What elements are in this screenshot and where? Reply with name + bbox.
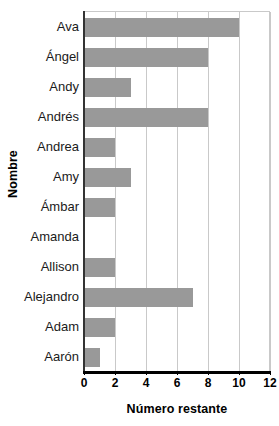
x-axis-tick-label: 0 [69, 376, 99, 390]
gridline [270, 12, 271, 371]
bar [84, 288, 193, 307]
y-axis-tick-label: Allison [41, 252, 79, 282]
bar [84, 258, 115, 277]
x-axis-tick-label: 10 [224, 376, 254, 390]
x-tick-mark [239, 371, 240, 375]
y-axis-title: Nombre [6, 134, 20, 214]
x-axis-tick-label: 6 [162, 376, 192, 390]
y-axis-tick-label: Aarón [44, 342, 79, 372]
x-tick-mark [84, 371, 85, 375]
x-tick-mark [208, 371, 209, 375]
bar-row: Alejandro [84, 282, 269, 312]
bar [84, 348, 100, 367]
y-axis-tick-label: Amy [53, 162, 79, 192]
x-axis-tick-label: 4 [131, 376, 161, 390]
y-axis-tick-label: Ava [57, 12, 79, 42]
x-tick-mark [115, 371, 116, 375]
bar [84, 168, 131, 187]
y-axis-tick-label: Andy [49, 72, 79, 102]
y-axis-tick-label: Amanda [31, 222, 79, 252]
bar-row: Amy [84, 162, 269, 192]
bar-row: Amanda [84, 222, 269, 252]
bar [84, 78, 131, 97]
bar [84, 138, 115, 157]
x-tick-mark [270, 371, 271, 375]
y-axis-tick-label: Ámbar [41, 192, 79, 222]
bar [84, 318, 115, 337]
x-tick-mark [146, 371, 147, 375]
bar-row: Andrea [84, 132, 269, 162]
x-axis-tick-label: 2 [100, 376, 130, 390]
bar-row: Ángel [84, 42, 269, 72]
bar-row: Allison [84, 252, 269, 282]
bar-chart: Nombre AvaÁngelAndyAndrésAndreaAmyÁmbarA… [0, 0, 279, 426]
y-axis-tick-label: Andrés [38, 102, 79, 132]
x-axis-tick-label: 8 [193, 376, 223, 390]
y-axis-tick-label: Ángel [46, 42, 79, 72]
x-tick-mark [177, 371, 178, 375]
x-axis-tick-label: 12 [255, 376, 279, 390]
plot-area: AvaÁngelAndyAndrésAndreaAmyÁmbarAmandaAl… [84, 11, 270, 371]
bar [84, 18, 239, 37]
bar [84, 108, 208, 127]
bar [84, 48, 208, 67]
bar-row: Aarón [84, 342, 269, 372]
bar-row: Ava [84, 12, 269, 42]
bar [84, 198, 115, 217]
y-axis-tick-label: Adam [45, 312, 79, 342]
y-axis-tick-label: Andrea [37, 132, 79, 162]
bar-row: Andy [84, 72, 269, 102]
y-axis-line [83, 11, 85, 372]
bar-row: Andrés [84, 102, 269, 132]
y-axis-tick-label: Alejandro [24, 282, 79, 312]
bar-row: Adam [84, 312, 269, 342]
x-axis-title: Número restante [84, 402, 270, 416]
bar-row: Ámbar [84, 192, 269, 222]
